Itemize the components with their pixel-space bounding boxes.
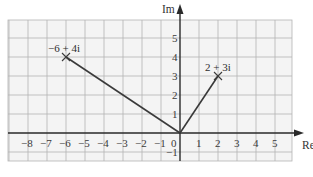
x-tick-5: 5: [272, 137, 278, 149]
x-tick-neg6: −6: [59, 137, 71, 149]
y-tick-1: 1: [172, 108, 178, 120]
x-tick-neg8: −8: [21, 137, 33, 149]
x-tick-neg4: −4: [97, 137, 109, 149]
x-tick-neg1: −1: [154, 137, 166, 149]
y-tick-3: 3: [172, 70, 178, 82]
x-tick-neg5: −5: [78, 137, 90, 149]
real-axis-label: Re: [302, 139, 313, 151]
imaginary-axis-label: Im: [162, 3, 175, 15]
y-tick-4: 4: [172, 51, 178, 63]
x-tick-3: 3: [234, 137, 240, 149]
y-tick-5: 5: [172, 32, 178, 44]
point-label-2-plus-3i: 2 + 3i: [205, 61, 231, 73]
y-tick-neg1: −1: [166, 146, 178, 158]
x-tick-neg2: −2: [135, 137, 147, 149]
imaginary-axis-arrow-icon: [177, 4, 184, 14]
x-tick-1: 1: [196, 137, 202, 149]
argand-diagram: Re Im −8 −7 −6 −5 −4 −3 −2 −1 0 1 2 3 4 …: [0, 0, 313, 177]
x-tick-2: 2: [215, 137, 221, 149]
real-axis-arrow-icon: [294, 130, 304, 137]
x-tick-neg7: −7: [40, 137, 52, 149]
point-label-neg6-plus-4i: −6 + 4i: [48, 42, 80, 54]
y-tick-2: 2: [172, 89, 178, 101]
x-tick-4: 4: [253, 137, 259, 149]
x-tick-neg3: −3: [116, 137, 128, 149]
